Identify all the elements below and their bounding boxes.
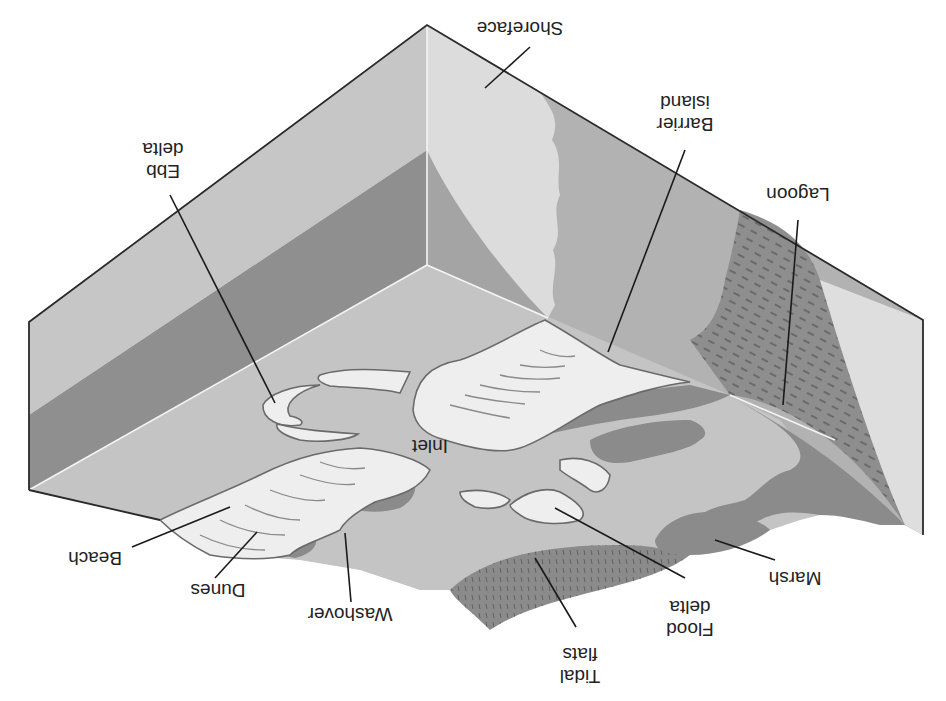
svg-text:Ebb: Ebb bbox=[146, 161, 180, 182]
svg-text:Flood: Flood bbox=[666, 619, 714, 640]
svg-text:flats: flats bbox=[563, 644, 598, 665]
svg-text:delta: delta bbox=[669, 597, 711, 618]
label-beach: Beach bbox=[68, 548, 122, 569]
label-shoreface: Shoreface bbox=[477, 18, 564, 39]
label-ebb-delta: Ebb delta bbox=[142, 139, 184, 182]
label-tidal-flats: Tidal flats bbox=[560, 644, 600, 687]
barrier-island-diagram: Shoreface Barrier island Lagoon Ebb delt… bbox=[0, 0, 946, 701]
label-lagoon: Lagoon bbox=[766, 184, 829, 205]
svg-text:Barrier: Barrier bbox=[656, 114, 714, 135]
label-marsh: Marsh bbox=[769, 568, 822, 589]
label-barrier-island: Barrier island bbox=[656, 92, 714, 135]
label-inlet: Inlet bbox=[411, 436, 448, 457]
svg-text:delta: delta bbox=[142, 139, 184, 160]
svg-text:Tidal: Tidal bbox=[560, 666, 600, 687]
label-dunes: Dunes bbox=[191, 580, 246, 601]
svg-text:island: island bbox=[660, 92, 710, 113]
label-flood-delta: Flood delta bbox=[666, 597, 714, 640]
label-washover: Washover bbox=[307, 604, 392, 625]
